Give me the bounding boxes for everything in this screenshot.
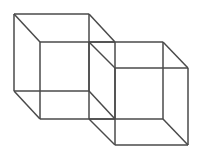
- canvas-background: [0, 0, 201, 157]
- wireframe-drawing: [0, 0, 201, 157]
- wireframe-figure-canvas: [0, 0, 201, 157]
